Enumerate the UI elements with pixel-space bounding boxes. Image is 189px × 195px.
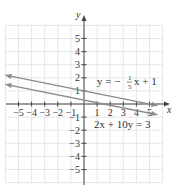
equation-1-frac-den: 5 xyxy=(128,83,132,91)
y-tick-label: 5 xyxy=(75,33,80,44)
y-tick-label: −1 xyxy=(69,112,80,123)
equation-label-2: 2x + 10y = 3 xyxy=(94,118,151,130)
x-axis-label: x xyxy=(166,104,172,115)
coordinate-plane: x y −5−4−3−2−11234554321−1−2−3−4−5 y = −… xyxy=(0,0,189,195)
x-tick-label: −4 xyxy=(26,107,37,118)
line-arrow-left-icon xyxy=(5,83,11,88)
x-tick-label: −5 xyxy=(13,107,24,118)
equation-1-tail: x + 1 xyxy=(134,75,157,87)
equation-label-1: y = − xyxy=(97,75,120,87)
y-axis-arrow-icon xyxy=(82,15,87,21)
y-tick-label: −3 xyxy=(69,138,80,149)
y-tick-label: 3 xyxy=(75,59,80,70)
y-tick-label: 4 xyxy=(75,46,80,57)
equation-1-frac-num: 1 xyxy=(128,74,132,82)
y-axis-label: y xyxy=(75,9,81,20)
y-tick-label: −5 xyxy=(69,164,80,175)
line-arrow-right-icon xyxy=(151,111,157,116)
equation-1-prefix: y = − xyxy=(97,75,120,87)
x-tick-label: −2 xyxy=(52,107,63,118)
x-tick-label: 4 xyxy=(134,107,139,118)
y-tick-label: −4 xyxy=(69,151,80,162)
y-tick-label: −2 xyxy=(69,125,80,136)
y-tick-label: 1 xyxy=(75,85,80,96)
y-tick-label: 2 xyxy=(75,72,80,83)
x-tick-label: −3 xyxy=(39,107,50,118)
x-tick-label: 1 xyxy=(95,107,100,118)
axes: x y xyxy=(6,9,172,185)
x-tick-label: 2 xyxy=(108,107,113,118)
